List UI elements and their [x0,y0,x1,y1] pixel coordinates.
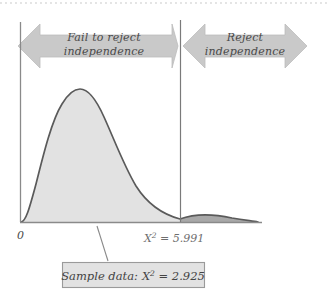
reject-label-line1: Reject [226,31,264,44]
critical-value-equals: = [157,232,173,245]
sample-data-equals: = [155,269,172,283]
sample-data-leader-line [97,226,108,261]
critical-value-label: X2 = 5.991 [143,231,204,245]
fail-to-reject-label-line1: Fail to reject [66,31,141,44]
sample-data-number: 2.925 [171,269,205,283]
critical-value-number: 5.991 [173,232,205,245]
svg-text:Sample data:X2 = 2.925: Sample data:X2 = 2.925 [61,269,205,283]
svg-text:X2 = 5.991: X2 = 5.991 [143,231,204,245]
origin-label: 0 [17,229,24,242]
reject-label-line2: independence [205,45,286,58]
sample-data-prefix: Sample data: [61,269,138,283]
sample-data-callout: Sample data:X2 = 2.925 [61,263,205,288]
figure-canvas: Fail to reject independence Reject indep… [0,0,330,302]
chi-square-test-figure: Fail to reject independence Reject indep… [0,0,330,302]
fail-to-reject-label-line2: independence [64,45,145,58]
